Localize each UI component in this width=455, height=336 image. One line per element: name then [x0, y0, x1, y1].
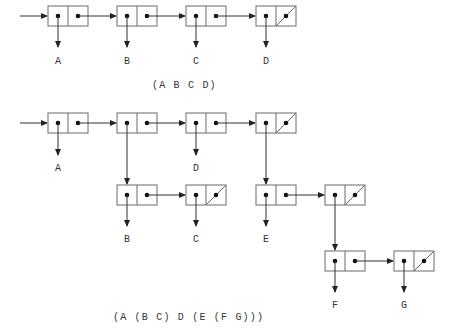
cons-cell-g-nil: [394, 251, 434, 271]
atom-label-e: E: [263, 234, 269, 245]
diagram-nested-list: A D: [20, 113, 434, 323]
cons-cell-sublist-efg-nil: [256, 113, 296, 133]
atom-label-c: C: [193, 234, 199, 245]
atom-label-d: D: [193, 163, 199, 174]
atom-label-g: G: [401, 300, 407, 311]
caption-flat-list: (A B C D): [152, 80, 217, 91]
cons-cell-d-nil: [256, 6, 296, 26]
atom-label-c: C: [193, 56, 199, 67]
atom-label-f: F: [332, 300, 338, 311]
cons-cell-diagrams: A B C D (A B C: [0, 0, 455, 336]
atom-label-a: A: [55, 56, 61, 67]
atom-label-b: B: [124, 234, 130, 245]
diagram-flat-list: A B C D (A B C: [20, 6, 296, 91]
atom-label-d: D: [263, 56, 269, 67]
cons-cell-c-nil: [186, 185, 226, 205]
atom-label-b: B: [124, 56, 130, 67]
atom-label-a: A: [55, 163, 61, 174]
cons-cell-sublist-fg-nil: [325, 185, 365, 205]
caption-nested-list: (A (B C) D (E (F G))): [113, 312, 264, 323]
